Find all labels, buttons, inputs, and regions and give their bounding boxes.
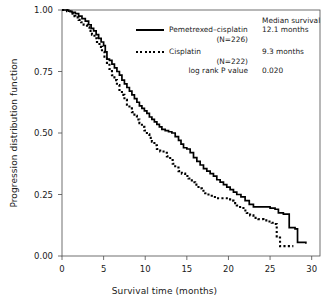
y-axis-title: Progression distribution function — [9, 13, 19, 253]
chart-legend: Median survival Pemetrexed–cisplatin (N=… — [136, 16, 324, 76]
x-tick-label: 30 — [297, 264, 327, 274]
y-tick-label: 0.50 — [19, 128, 53, 138]
x-tick-label: 15 — [172, 264, 202, 274]
legend-header-spacer — [136, 16, 164, 25]
y-tick-label: 1.00 — [19, 5, 53, 15]
legend-n-pemetrexed: (N=226) — [169, 35, 262, 44]
legend-label-cisplatin: Cisplatin — [169, 47, 262, 56]
x-axis-title: Survival time (months) — [0, 286, 329, 296]
legend-pvalue-spacer — [136, 66, 164, 75]
y-tick-label: 0.75 — [19, 67, 53, 77]
legend-pemetrexed-text: Pemetrexed–cisplatin (N=226) — [169, 25, 262, 44]
dotted-line-swatch-icon — [136, 47, 164, 56]
y-tick-label: 0.25 — [19, 190, 53, 200]
legend-row-cisplatin: Cisplatin (N=222) 9.3 months — [136, 47, 324, 66]
median-survival-pemetrexed: 12.1 months — [262, 25, 324, 34]
log-rank-p-label: log rank P value — [169, 66, 262, 75]
x-tick-label: 0 — [47, 264, 77, 274]
survival-curve-figure: 0.000.250.500.751.00 051015202530 Progre… — [0, 0, 329, 306]
x-tick-label: 25 — [255, 264, 285, 274]
legend-label-pemetrexed: Pemetrexed–cisplatin — [169, 25, 262, 34]
log-rank-p-value: 0.020 — [262, 66, 324, 75]
y-tick-label: 0.00 — [19, 251, 53, 261]
legend-n-cisplatin: (N=222) — [169, 57, 262, 66]
legend-row-pvalue: log rank P value 0.020 — [136, 66, 324, 75]
solid-line-swatch-icon — [136, 25, 164, 34]
median-survival-cisplatin: 9.3 months — [262, 47, 324, 56]
legend-header-row: Median survival — [136, 16, 324, 25]
x-tick-label: 20 — [213, 264, 243, 274]
legend-row-pemetrexed: Pemetrexed–cisplatin (N=226) 12.1 months — [136, 25, 324, 44]
x-tick-label: 10 — [130, 264, 160, 274]
legend-cisplatin-text: Cisplatin (N=222) — [169, 47, 262, 66]
median-survival-header: Median survival — [262, 16, 324, 25]
x-tick-label: 5 — [89, 264, 119, 274]
